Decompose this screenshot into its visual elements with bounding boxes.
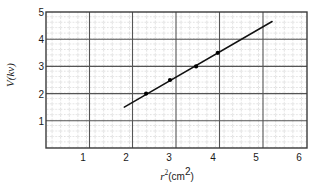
data-point <box>144 92 148 96</box>
data-point <box>216 51 220 55</box>
data-point <box>194 64 198 68</box>
plot-area <box>0 0 322 188</box>
data-point <box>168 78 172 82</box>
chart-figure: V(kv) 5 4 3 2 1 1 2 3 4 5 6 r2(cm2) <box>0 0 322 188</box>
